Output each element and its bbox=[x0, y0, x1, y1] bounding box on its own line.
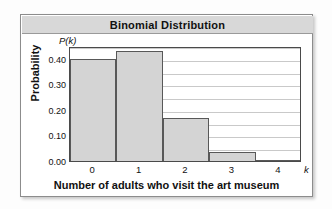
y-tick-0.40: 0.40 bbox=[48, 55, 66, 65]
y-axis-symbol: P(k) bbox=[59, 35, 76, 46]
y-tick-0.00: 0.00 bbox=[48, 157, 66, 167]
plot-area bbox=[69, 47, 301, 162]
x-tick-2: 2 bbox=[182, 164, 187, 175]
x-axis-label: Number of adults who visit the art museu… bbox=[21, 179, 312, 191]
x-tick-1: 1 bbox=[136, 164, 141, 175]
chart-title: Binomial Distribution bbox=[110, 19, 225, 31]
x-axis-symbol: k bbox=[304, 164, 309, 175]
y-tick-0.30: 0.30 bbox=[48, 80, 66, 90]
chart-title-bar: Binomial Distribution bbox=[22, 16, 313, 34]
y-tick-0.20: 0.20 bbox=[48, 106, 66, 116]
x-tick-0: 0 bbox=[90, 164, 95, 175]
x-tick-4: 4 bbox=[275, 164, 280, 175]
bar-3 bbox=[209, 152, 255, 161]
screenshot-root: Binomial Distribution P(k) Probability 0… bbox=[0, 0, 332, 209]
bar-4 bbox=[256, 160, 301, 161]
y-axis-tick-labels: 0.000.100.200.300.40 bbox=[27, 47, 66, 162]
bar-series bbox=[70, 48, 300, 161]
bar-2 bbox=[163, 118, 209, 161]
x-tick-3: 3 bbox=[229, 164, 234, 175]
y-tick-0.10: 0.10 bbox=[48, 131, 66, 141]
bar-1 bbox=[116, 51, 162, 161]
x-axis-tick-labels: 01234 bbox=[69, 164, 301, 178]
chart-card: Binomial Distribution P(k) Probability 0… bbox=[20, 14, 313, 197]
bar-0 bbox=[70, 59, 116, 161]
